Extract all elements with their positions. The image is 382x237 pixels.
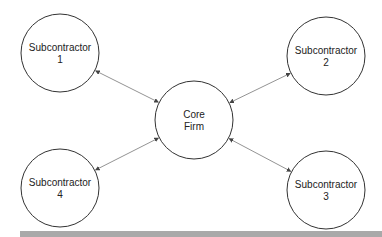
node-circle	[21, 14, 99, 92]
edge-core-sub3	[229, 139, 290, 172]
node-sub4: Subcontractor4	[21, 149, 99, 227]
edge-core-sub4	[96, 138, 159, 170]
node-sub3: Subcontractor3	[287, 151, 365, 229]
node-circle	[21, 149, 99, 227]
node-label: Core	[183, 109, 205, 120]
node-label: Subcontractor	[29, 177, 92, 188]
node-label: Subcontractor	[29, 42, 92, 53]
node-label: 1	[57, 54, 63, 65]
edge-core-sub1	[96, 71, 158, 102]
node-sub2: Subcontractor2	[287, 17, 365, 95]
node-label: 2	[323, 57, 329, 68]
node-label: 3	[323, 191, 329, 202]
footer-bar	[20, 231, 382, 237]
network-diagram: CoreFirmSubcontractor1Subcontractor2Subc…	[0, 0, 382, 237]
node-label: Subcontractor	[295, 45, 358, 56]
node-label: Subcontractor	[295, 179, 358, 190]
node-sub1: Subcontractor1	[21, 14, 99, 92]
node-circle	[287, 17, 365, 95]
node-circle	[155, 81, 233, 159]
node-label: Firm	[184, 121, 204, 132]
node-label: 4	[57, 189, 63, 200]
node-circle	[287, 151, 365, 229]
node-core: CoreFirm	[155, 81, 233, 159]
edge-core-sub2	[230, 73, 290, 102]
